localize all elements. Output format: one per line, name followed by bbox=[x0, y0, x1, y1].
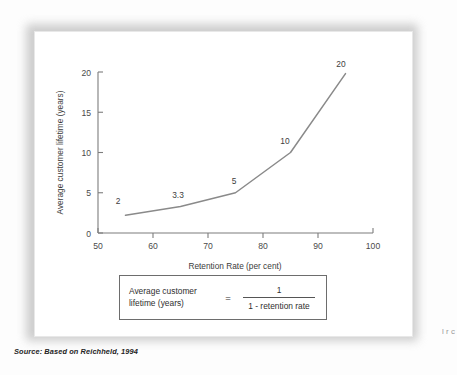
figure-card: 20 15 10 5 0 50 60 70 80 bbox=[34, 31, 413, 337]
y-tick-label-0: 0 bbox=[86, 229, 91, 239]
formula-lhs-line2: lifetime (years) bbox=[129, 298, 215, 309]
y-tick-label-20: 20 bbox=[81, 68, 91, 78]
point-label-1: 2 bbox=[116, 196, 121, 206]
x-tick-label-60: 60 bbox=[148, 241, 158, 251]
x-tick-label-70: 70 bbox=[203, 241, 213, 251]
y-tick-label-10: 10 bbox=[81, 148, 91, 158]
x-tick-label-50: 50 bbox=[93, 241, 103, 251]
formula-denominator: 1 - retention rate bbox=[241, 300, 317, 311]
source-caption: Source: Based on Reichheld, 1994 bbox=[14, 347, 138, 356]
y-tick-label-15: 15 bbox=[81, 108, 91, 118]
x-tick-label-80: 80 bbox=[258, 241, 268, 251]
formula-equals-sign: = bbox=[215, 292, 241, 303]
y-tick-label-5: 5 bbox=[86, 188, 91, 198]
y-axis-ticks bbox=[98, 72, 103, 233]
point-label-3: 5 bbox=[232, 176, 237, 186]
point-label-2: 3.3 bbox=[172, 190, 184, 200]
formula-box: Average customer lifetime (years) = 1 1 … bbox=[119, 275, 327, 320]
point-label-5: 20 bbox=[336, 59, 346, 69]
formula-fraction: 1 1 - retention rate bbox=[241, 285, 317, 311]
formula-fraction-bar bbox=[243, 297, 315, 298]
x-tick-label-100: 100 bbox=[366, 241, 381, 251]
formula-numerator: 1 bbox=[241, 285, 317, 296]
margin-text-fragment: l r c bbox=[442, 326, 456, 338]
formula-lhs-line1: Average customer bbox=[129, 286, 215, 297]
x-tick-label-90: 90 bbox=[313, 241, 323, 251]
data-series-line bbox=[126, 74, 346, 216]
y-axis-title: Average customer lifetime (years) bbox=[55, 90, 65, 214]
point-label-4: 10 bbox=[280, 136, 290, 146]
figure-root: 20 15 10 5 0 50 60 70 80 bbox=[0, 0, 457, 375]
x-axis-title: Retention Rate (per cent) bbox=[188, 261, 281, 271]
formula-left-side: Average customer lifetime (years) bbox=[129, 286, 215, 308]
